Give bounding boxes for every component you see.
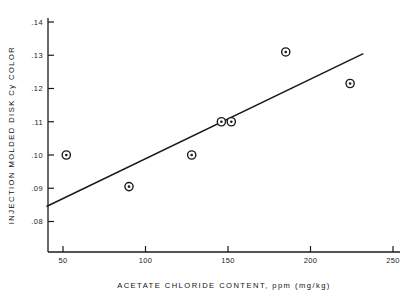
x-tick-label: 250 — [386, 256, 400, 265]
data-point — [217, 118, 225, 126]
data-point-center — [190, 154, 193, 157]
y-tick-label: .11 — [32, 118, 43, 127]
data-point — [125, 182, 133, 190]
y-tick-label: .14 — [31, 18, 43, 27]
data-point — [62, 151, 70, 159]
data-point-center — [65, 154, 68, 157]
data-point-center — [284, 51, 287, 54]
y-tick-label: .08 — [31, 217, 43, 226]
data-point — [282, 48, 290, 56]
data-point — [227, 118, 235, 126]
x-tick-label: 50 — [58, 256, 67, 265]
x-tick-label: 150 — [221, 256, 235, 265]
data-point — [346, 79, 354, 87]
y-tick-label: .13 — [31, 51, 43, 60]
y-tick-label: .09 — [31, 184, 43, 193]
chart-page: .08.09.10.11.12.13.14 50100150200250 ACE… — [0, 0, 414, 297]
data-point — [188, 151, 196, 159]
x-tick-label: 200 — [304, 256, 318, 265]
data-point-center — [349, 82, 352, 85]
y-tick-label: .10 — [31, 151, 43, 160]
data-point-center — [128, 185, 131, 188]
x-axis-title: ACETATE CHLORIDE CONTENT, ppm (mg/kg) — [117, 281, 331, 290]
data-point-center — [230, 120, 233, 123]
y-tick-label: .12 — [31, 84, 43, 93]
scatter-chart: .08.09.10.11.12.13.14 50100150200250 ACE… — [0, 0, 414, 297]
x-tick-label: 100 — [139, 256, 153, 265]
data-point-center — [220, 120, 223, 123]
y-axis-title: INJECTION MOLDED DISK Cy COLOR — [7, 46, 16, 225]
